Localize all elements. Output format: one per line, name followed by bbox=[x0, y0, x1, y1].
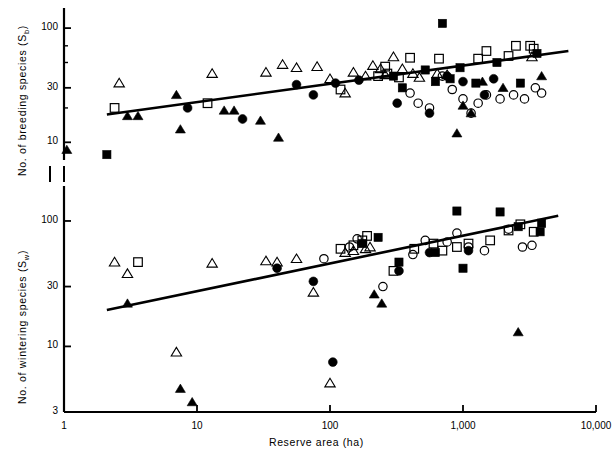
data-point-filled-square bbox=[374, 233, 382, 241]
data-point-filled-triangle bbox=[274, 133, 284, 141]
data-point-filled-triangle bbox=[452, 129, 462, 137]
data-point-open-square bbox=[474, 54, 483, 63]
data-point-open-square bbox=[435, 54, 444, 63]
data-point-filled-triangle bbox=[369, 290, 379, 298]
data-point-open-circle bbox=[537, 89, 545, 97]
data-point-open-circle bbox=[474, 99, 482, 107]
data-point-filled-square bbox=[395, 258, 403, 266]
data-point-filled-triangle bbox=[229, 106, 239, 114]
data-point-open-circle bbox=[518, 243, 526, 251]
upper-y-title-text: No. of breeding species (S bbox=[16, 34, 28, 176]
data-point-filled-circle bbox=[480, 91, 489, 100]
lower-panel-y-tick-label: 3 bbox=[22, 405, 58, 416]
data-point-filled-triangle bbox=[377, 299, 387, 307]
upper-panel-y-tick-label: 30 bbox=[22, 81, 58, 92]
data-point-open-circle bbox=[448, 85, 456, 93]
data-point-open-triangle bbox=[368, 61, 378, 70]
data-point-open-triangle bbox=[122, 269, 132, 278]
data-point-filled-square bbox=[358, 240, 366, 248]
data-point-filled-circle bbox=[393, 99, 402, 108]
data-point-open-circle bbox=[528, 241, 536, 249]
data-point-open-triangle bbox=[109, 257, 119, 266]
data-point-filled-circle bbox=[443, 72, 452, 81]
lower-y-title-tail: ) bbox=[16, 250, 28, 254]
lower-panel-y-axis-title: No. of wintering species (Sw) bbox=[16, 250, 31, 404]
data-point-filled-square bbox=[431, 78, 439, 86]
regression-line-upper bbox=[107, 51, 569, 115]
data-point-open-triangle bbox=[261, 68, 271, 77]
x-tick-label: 10 bbox=[157, 420, 237, 431]
data-point-filled-circle bbox=[309, 91, 318, 100]
upper-panel-y-tick-label: 100 bbox=[22, 21, 58, 32]
data-point-open-triangle bbox=[308, 288, 318, 297]
data-point-open-triangle bbox=[312, 62, 322, 71]
data-point-filled-circle bbox=[489, 74, 498, 83]
data-point-filled-triangle bbox=[219, 106, 229, 114]
data-point-open-circle bbox=[320, 255, 328, 263]
data-point-filled-square bbox=[438, 19, 446, 27]
data-point-filled-triangle bbox=[133, 111, 143, 119]
data-point-filled-square bbox=[459, 264, 467, 272]
data-point-open-square bbox=[512, 42, 521, 51]
data-point-open-square bbox=[486, 236, 495, 245]
data-point-filled-square bbox=[516, 79, 524, 87]
x-axis-title: Reserve area (ha) bbox=[269, 436, 364, 448]
upper-panel-y-tick-label: 10 bbox=[22, 135, 58, 146]
lower-panel-y-tick-label: 30 bbox=[22, 280, 58, 291]
data-point-filled-triangle bbox=[255, 116, 265, 124]
data-point-open-triangle bbox=[171, 347, 181, 356]
data-point-open-triangle bbox=[388, 52, 398, 61]
x-tick-label: 1 bbox=[24, 420, 104, 431]
data-point-open-triangle bbox=[207, 258, 217, 267]
data-point-open-circle bbox=[520, 95, 528, 103]
data-point-open-square bbox=[134, 258, 143, 267]
data-point-open-triangle bbox=[348, 68, 358, 77]
data-point-open-circle bbox=[409, 250, 417, 258]
data-point-open-triangle bbox=[261, 256, 271, 265]
data-point-open-triangle bbox=[207, 69, 217, 78]
data-point-open-circle bbox=[414, 99, 422, 107]
data-point-filled-circle bbox=[328, 358, 337, 367]
data-point-open-triangle bbox=[277, 60, 287, 69]
data-point-filled-circle bbox=[464, 246, 473, 255]
data-point-open-square bbox=[482, 47, 491, 56]
data-point-open-circle bbox=[406, 89, 414, 97]
data-point-open-square bbox=[453, 243, 462, 252]
data-point-open-square bbox=[110, 104, 119, 113]
data-point-open-triangle bbox=[291, 254, 301, 263]
data-point-filled-circle bbox=[238, 115, 247, 124]
data-point-open-triangle bbox=[397, 64, 407, 73]
data-point-filled-triangle bbox=[171, 90, 181, 98]
data-point-filled-square bbox=[472, 79, 480, 87]
data-point-open-circle bbox=[480, 246, 488, 254]
data-point-open-square bbox=[526, 42, 535, 51]
data-point-filled-triangle bbox=[175, 384, 185, 392]
data-point-open-circle bbox=[509, 91, 517, 99]
data-point-open-square bbox=[336, 245, 345, 254]
data-point-filled-square bbox=[496, 208, 504, 216]
data-point-filled-square bbox=[398, 84, 406, 92]
data-point-filled-triangle bbox=[175, 125, 185, 133]
data-point-filled-circle bbox=[459, 77, 468, 86]
upper-panel-y-axis-title: No. of breeding species (Sb) bbox=[16, 25, 31, 176]
lower-panel-y-tick-label: 100 bbox=[22, 214, 58, 225]
data-point-filled-square bbox=[103, 151, 111, 159]
data-point-filled-circle bbox=[309, 277, 318, 286]
lower-y-title-subscript: w bbox=[22, 254, 31, 260]
data-point-filled-circle bbox=[425, 109, 434, 118]
data-point-filled-circle bbox=[425, 248, 434, 257]
data-point-filled-square bbox=[453, 207, 461, 215]
data-point-filled-circle bbox=[395, 266, 404, 275]
data-point-open-square bbox=[406, 53, 415, 62]
data-point-filled-triangle bbox=[187, 397, 197, 405]
data-point-open-triangle bbox=[291, 63, 301, 72]
data-point-open-circle bbox=[496, 95, 504, 103]
data-point-filled-triangle bbox=[498, 83, 508, 91]
data-point-filled-square bbox=[536, 228, 544, 236]
data-point-filled-triangle bbox=[513, 328, 523, 336]
data-point-filled-triangle bbox=[537, 72, 547, 80]
x-tick-label: 10,000 bbox=[556, 420, 616, 431]
lower-panel-y-tick-label: 10 bbox=[22, 339, 58, 350]
